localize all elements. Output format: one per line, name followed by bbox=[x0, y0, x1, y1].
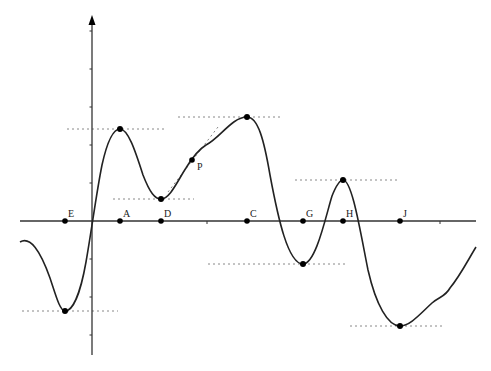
point-P bbox=[189, 157, 195, 163]
extremum-point-E bbox=[62, 308, 68, 314]
axis-point-E bbox=[62, 218, 68, 224]
graph-canvas: EADCGHJP bbox=[0, 0, 491, 371]
axis-point-H bbox=[340, 218, 346, 224]
y-axis-arrow-icon bbox=[89, 15, 96, 25]
axis-point-label-J: J bbox=[403, 208, 407, 219]
extremum-point-G bbox=[300, 261, 306, 267]
extremum-point-J bbox=[397, 323, 403, 329]
extremum-point-A bbox=[117, 126, 123, 132]
axis-point-label-C: C bbox=[250, 208, 257, 219]
function-graph-diagram: EADCGHJP bbox=[0, 0, 491, 371]
coordinate-axes bbox=[20, 15, 476, 355]
axis-point-label-E: E bbox=[68, 208, 74, 219]
axis-point-D bbox=[158, 218, 164, 224]
extremum-point-H bbox=[340, 177, 346, 183]
axis-point-label-D: D bbox=[164, 208, 171, 219]
point-P-label: P bbox=[197, 161, 203, 172]
axis-point-C bbox=[244, 218, 250, 224]
axis-point-J bbox=[397, 218, 403, 224]
extremum-point-C bbox=[244, 114, 250, 120]
axis-point-A bbox=[117, 218, 123, 224]
extremum-point-D bbox=[158, 196, 164, 202]
axis-point-label-A: A bbox=[123, 208, 131, 219]
axis-point-label-H: H bbox=[346, 208, 353, 219]
axis-point-G bbox=[300, 218, 306, 224]
axis-point-label-G: G bbox=[306, 208, 313, 219]
